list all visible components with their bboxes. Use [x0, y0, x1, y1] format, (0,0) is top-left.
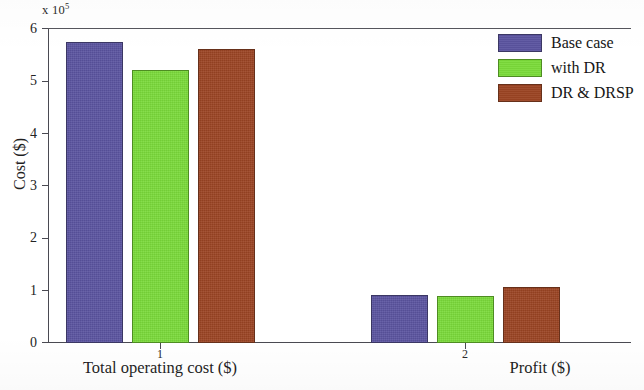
- y-tick-label: 3: [30, 176, 37, 196]
- legend-label-base-case: Base case: [551, 34, 614, 52]
- y-axis-title: Cost ($): [11, 94, 29, 234]
- y-tick-label: 1: [30, 281, 37, 301]
- y-axis-exponent-power: 5: [65, 1, 70, 11]
- legend: Base case with DR DR & DRSP: [498, 26, 644, 107]
- y-tick-label: 4: [30, 124, 37, 144]
- y-tick-mark: [42, 81, 48, 82]
- y-tick-mark: [42, 185, 48, 186]
- x-group-label-profit: Profit ($): [460, 358, 620, 378]
- bar-group1-with-dr: [132, 70, 189, 343]
- legend-swatch-base-case: [498, 34, 542, 52]
- legend-item-base-case: Base case: [498, 30, 644, 55]
- y-tick-mark: [42, 290, 48, 291]
- bar-group1-base-case: [66, 42, 123, 343]
- legend-swatch-dr-drsp: [498, 84, 542, 102]
- y-tick-label: 5: [30, 71, 37, 91]
- legend-item-with-dr: with DR: [498, 55, 644, 80]
- y-axis-exponent-label: x 105: [42, 3, 70, 18]
- y-axis-exponent-prefix: x 10: [42, 3, 65, 17]
- legend-label-with-dr: with DR: [551, 59, 606, 77]
- y-tick-mark: [42, 133, 48, 134]
- legend-label-dr-drsp: DR & DRSP: [551, 84, 634, 102]
- y-tick-mark: [42, 238, 48, 239]
- y-tick-mark: [42, 28, 48, 29]
- y-tick-label: 6: [30, 19, 37, 39]
- bar-group2-base-case: [371, 295, 428, 343]
- legend-item-dr-drsp: DR & DRSP: [498, 80, 644, 105]
- y-tick-label: 2: [30, 228, 37, 248]
- x-group-label-total-operating-cost: Total operating cost ($): [60, 358, 260, 378]
- y-tick-mark: [42, 342, 48, 343]
- bar-chart-figure: x 105 0 1 2 3 4 5 6 Cost ($) 1: [0, 0, 644, 390]
- legend-swatch-with-dr: [498, 59, 542, 77]
- bar-group2-with-dr: [437, 296, 494, 343]
- bar-group2-dr-drsp: [503, 287, 560, 343]
- bar-group1-dr-drsp: [198, 49, 255, 343]
- y-tick-label: 0: [30, 333, 37, 353]
